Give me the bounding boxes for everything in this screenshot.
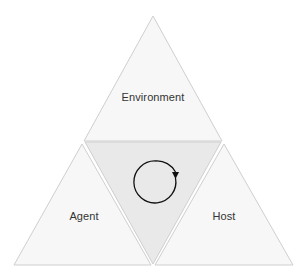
environment-label: Environment	[122, 91, 185, 103]
agent-label: Agent	[69, 210, 98, 222]
environment-region	[84, 16, 222, 141]
host-label: Host	[212, 210, 235, 222]
triangle-diagram	[0, 0, 303, 275]
